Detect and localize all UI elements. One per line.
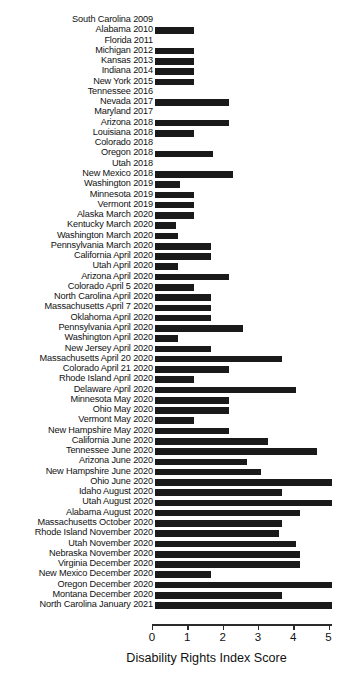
bar — [155, 171, 233, 178]
bar-category-label: Utah April 2020 — [92, 260, 153, 270]
bar — [155, 151, 213, 158]
x-axis-tick — [223, 624, 224, 630]
bar-category-label: Indiana 2014 — [102, 65, 153, 75]
bar-category-label: Colorado April 21 2020 — [63, 363, 153, 373]
x-axis-tick — [258, 624, 259, 630]
bar-category-label: Oregon December 2020 — [57, 579, 153, 589]
bar — [155, 212, 194, 219]
chart-row: Utah 2018 — [0, 160, 353, 170]
bar-category-label: Utah August 2020 — [82, 496, 153, 506]
chart-row: Massachusetts April 7 2020 — [0, 303, 353, 313]
bar — [155, 253, 211, 260]
chart-row: Utah April 2020 — [0, 262, 353, 272]
bar — [155, 417, 194, 424]
bar-category-label: Louisiana 2018 — [93, 127, 153, 137]
bar — [155, 335, 178, 342]
bar-category-label: Alabama 2010 — [96, 24, 153, 34]
chart-row: Kansas 2013 — [0, 57, 353, 67]
chart-row: Minnesota 2019 — [0, 191, 353, 201]
chart-row: Louisiana 2018 — [0, 129, 353, 139]
bar — [155, 469, 261, 476]
bar-category-label: Oregon 2018 — [101, 147, 153, 157]
bar — [155, 68, 194, 75]
x-axis-tick-label: 4 — [281, 631, 305, 644]
bar — [155, 48, 194, 55]
chart-row: Washington April 2020 — [0, 334, 353, 344]
chart-row: Kentucky March 2020 — [0, 221, 353, 231]
bar — [155, 397, 229, 404]
bar — [155, 294, 211, 301]
bar-category-label: Pennsylvania April 2020 — [58, 322, 153, 332]
chart-row: Oklahoma April 2020 — [0, 314, 353, 324]
chart-row: New Mexico December 2020 — [0, 570, 353, 580]
bar — [155, 571, 211, 578]
chart-row: Nevada 2017 — [0, 98, 353, 108]
bar — [155, 602, 332, 609]
bar-category-label: Kansas 2013 — [101, 55, 153, 65]
chart-row: Arizona 2018 — [0, 119, 353, 129]
x-axis-tick — [187, 624, 188, 630]
bar — [155, 243, 211, 250]
chart-row: Arizona April 2020 — [0, 273, 353, 283]
bar-category-label: Utah November 2020 — [68, 538, 153, 548]
bar-category-label: North Carolina January 2021 — [40, 599, 153, 609]
bar — [155, 592, 282, 599]
disability-rights-index-bar-chart: South Carolina 2009Alabama 2010Florida 2… — [0, 0, 353, 684]
chart-row: Massachusetts April 20 2020 — [0, 355, 353, 365]
chart-row: Colorado 2018 — [0, 139, 353, 149]
bar-category-label: Nebraska November 2020 — [49, 548, 153, 558]
bar — [155, 376, 194, 383]
bar — [155, 387, 296, 394]
bar — [155, 459, 247, 466]
bar — [155, 561, 300, 568]
bar-category-label: Arizona June 2020 — [79, 455, 153, 465]
bar — [155, 58, 194, 65]
bar — [155, 192, 194, 199]
bar — [155, 325, 243, 332]
bar-category-label: Oklahoma April 2020 — [71, 312, 153, 322]
bar-category-label: Delaware April 2020 — [74, 384, 153, 394]
bar-category-label: Vermont 2019 — [98, 199, 153, 209]
chart-row: Idaho August 2020 — [0, 488, 353, 498]
bar — [155, 79, 194, 86]
bar — [155, 407, 229, 414]
bar-category-label: Alaska March 2020 — [77, 209, 153, 219]
chart-row: Ohio June 2020 — [0, 478, 353, 488]
bar — [155, 305, 211, 312]
chart-row: Utah August 2020 — [0, 498, 353, 508]
bar — [155, 582, 332, 589]
bar — [155, 274, 229, 281]
chart-row: Vermont 2019 — [0, 201, 353, 211]
bar — [155, 366, 229, 373]
bar-category-label: New Jersey April 2020 — [65, 343, 153, 353]
bar-category-label: Tennessee 2016 — [88, 86, 153, 96]
bar-category-label: Pennsylvania March 2020 — [51, 240, 153, 250]
bar — [155, 346, 211, 353]
bar-category-label: New Hampshire June 2020 — [46, 466, 153, 476]
chart-rows: South Carolina 2009Alabama 2010Florida 2… — [0, 16, 353, 611]
chart-row: Nebraska November 2020 — [0, 550, 353, 560]
chart-row: Rhode Island April 2020 — [0, 375, 353, 385]
bar-category-label: Massachusetts April 20 2020 — [40, 353, 153, 363]
bar-category-label: Virginia December 2020 — [58, 558, 153, 568]
chart-row: North Carolina January 2021 — [0, 601, 353, 611]
bar-category-label: Vermont May 2020 — [78, 414, 153, 424]
chart-row: California June 2020 — [0, 437, 353, 447]
chart-row: Alaska March 2020 — [0, 211, 353, 221]
chart-row: Maryland 2017 — [0, 108, 353, 118]
chart-row: Tennessee June 2020 — [0, 447, 353, 457]
chart-row: Michigan 2012 — [0, 47, 353, 57]
bar — [155, 263, 178, 270]
x-axis-tick — [329, 624, 330, 630]
bar-category-label: Ohio June 2020 — [90, 476, 153, 486]
bar-category-label: Arizona 2018 — [101, 117, 153, 127]
x-axis-tick-label: 0 — [140, 631, 164, 644]
chart-row: Pennsylvania March 2020 — [0, 242, 353, 252]
bar-category-label: Nevada 2017 — [100, 96, 153, 106]
chart-row: Minnesota May 2020 — [0, 396, 353, 406]
chart-row: New Mexico 2018 — [0, 170, 353, 180]
bar-category-label: Montana December 2020 — [52, 589, 153, 599]
bar — [155, 438, 268, 445]
bar-category-label: New Hampshire May 2020 — [48, 425, 153, 435]
bar-category-label: Colorado 2018 — [95, 137, 153, 147]
